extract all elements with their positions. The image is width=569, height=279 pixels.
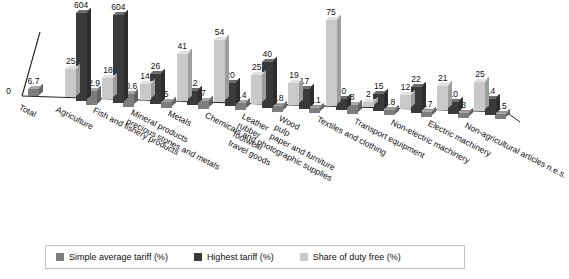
bar-group: 54206.4 [214, 101, 247, 102]
bar-face [326, 20, 337, 106]
legend-item-highest-tariff: Highest tariff (%) [194, 252, 274, 262]
bar: 2 [363, 102, 374, 107]
bar-face [363, 102, 374, 107]
bar-side [262, 70, 266, 102]
bar-side [273, 56, 277, 105]
bar-value-label: 75 [326, 7, 335, 17]
bar-value-label: 2 [366, 89, 371, 99]
bar-face [235, 103, 246, 110]
bar: 7 [198, 101, 209, 109]
bar-group: 41127 [177, 100, 210, 101]
bar: 75 [326, 20, 337, 106]
bar: 6.4 [235, 103, 246, 110]
bar: 14 [140, 84, 151, 100]
bar: 4.8 [272, 106, 283, 112]
bar-group: 1860410.6 [102, 98, 135, 99]
legend-label-simple-average: Simple average tariff (%) [69, 252, 168, 262]
bar-group: 25142.5 [474, 110, 507, 111]
bar-face [309, 108, 320, 113]
bar-face [421, 112, 432, 117]
bar: 21 [437, 86, 448, 110]
bar: 1.1 [309, 108, 320, 113]
bar-face [28, 89, 39, 97]
bar-side [76, 64, 80, 96]
bar: 25 [251, 75, 262, 104]
bar-value-label: 25 [475, 69, 484, 79]
bar-value-label: 41 [178, 41, 187, 51]
bar-group: 19171.1 [288, 104, 321, 105]
bar-value-label: 12 [401, 82, 410, 92]
bar-value-label: 25 [66, 56, 75, 66]
bar-value-label: 19 [289, 70, 298, 80]
bar-group: 21103 [437, 109, 470, 110]
bar-face [288, 83, 299, 105]
bar-value-label: 6.7 [28, 76, 40, 86]
bar-face [272, 106, 283, 112]
bar: 19 [288, 83, 299, 105]
legend-swatch-simple-average [56, 253, 64, 261]
bar-group: 75108 [326, 105, 359, 106]
bar-value-label: 15 [374, 81, 383, 91]
bar-value-label: 22 [411, 74, 420, 84]
bar-value-label: 21 [438, 73, 447, 83]
bar-value-label: 40 [262, 49, 271, 59]
bar-face [214, 40, 225, 102]
bar-side [337, 15, 341, 104]
bar-face [161, 102, 172, 108]
legend-item-duty-free: Share of duty free (%) [300, 252, 401, 262]
bar-face [474, 82, 485, 111]
bar-face [140, 84, 151, 100]
bar-face [65, 69, 76, 98]
bar-side [225, 35, 229, 100]
bar-face [495, 114, 506, 119]
bar: 41 [177, 54, 188, 101]
bar-face [384, 110, 395, 116]
bar-group: 2154.8 [363, 106, 396, 107]
bar-side [124, 10, 128, 101]
legend-label-duty-free: Share of duty free (%) [313, 252, 401, 262]
bar: 54 [214, 40, 225, 102]
axis-origin-label: 0 [6, 86, 11, 96]
bar-group: 25404.8 [251, 103, 284, 104]
bar-value-label: 604 [111, 2, 125, 12]
bar-top [326, 17, 340, 20]
legend-swatch-duty-free [300, 253, 308, 261]
bar-group: 14265 [140, 99, 173, 100]
bar-group: 2560412.9 [65, 96, 98, 97]
bar-side [161, 69, 165, 102]
bar-group: 6.7 [28, 95, 61, 96]
bar-side [87, 8, 91, 99]
bar: 2.5 [495, 114, 506, 119]
bar: 12 [400, 95, 411, 109]
bar-face [102, 78, 113, 99]
legend-label-highest-tariff: Highest tariff (%) [207, 252, 274, 262]
bar: 1.7 [421, 112, 432, 117]
bar-side [188, 49, 192, 99]
bar: 25 [474, 82, 485, 111]
plot-area: 0 6.72560412.91860410.6142654112754206.4… [0, 0, 531, 130]
bar: 3 [458, 113, 469, 118]
bar-face [177, 54, 188, 101]
bar-face [437, 86, 448, 110]
bar-value-label: 18 [103, 65, 112, 75]
bar: 6.7 [28, 89, 39, 97]
bar-top [28, 86, 42, 89]
bar-group: 12221.7 [400, 108, 433, 109]
bar-value-label: 26 [151, 61, 160, 71]
bar-side [485, 77, 489, 109]
bar-top [262, 59, 276, 62]
bar-value-label: 604 [74, 0, 88, 10]
bar-face [458, 113, 469, 118]
legend-swatch-highest-tariff [194, 253, 202, 261]
bar-top [140, 81, 154, 84]
bar-value-label: 25 [252, 62, 261, 72]
legend-item-simple-average: Simple average tariff (%) [56, 252, 168, 262]
bar-value-label: 14 [140, 71, 149, 81]
chart-legend: Simple average tariff (%) Highest tariff… [45, 245, 465, 269]
bar-face [251, 75, 262, 104]
bar: 25 [65, 69, 76, 98]
bar-face [400, 95, 411, 109]
bar: 4.8 [384, 110, 395, 116]
bar: 5 [161, 102, 172, 108]
